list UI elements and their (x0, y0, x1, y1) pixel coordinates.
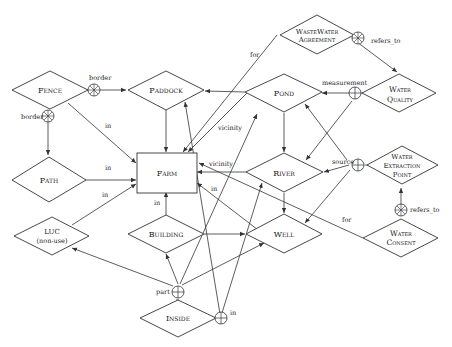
entity-wastewater-agreement[interactable]: WasteWater Agreement (280, 15, 354, 54)
label-luc-in: in (102, 191, 108, 199)
svg-text:Pond: Pond (274, 89, 295, 98)
entity-well[interactable]: Well (246, 214, 322, 253)
label-fence-in: in (105, 122, 111, 130)
svg-text:LUC: LUC (44, 228, 60, 236)
entity-water-quality[interactable]: Water Quality (362, 74, 436, 112)
entity-building[interactable]: Building (128, 215, 204, 253)
junction-border-top-icon (88, 84, 100, 96)
entity-water-consent[interactable]: Water Consent (363, 219, 438, 257)
entity-pond[interactable]: Pond (245, 74, 322, 112)
svg-text:Building: Building (149, 230, 184, 239)
label-refers-to-bottom: refers_to (410, 206, 440, 214)
label-path-in: in (105, 164, 111, 172)
svg-text:River: River (273, 169, 295, 178)
label-border-top: border (89, 74, 112, 82)
label-source: source (332, 158, 354, 166)
svg-text:Quality: Quality (387, 95, 413, 104)
label-refers-to-top: refers_to (371, 37, 401, 45)
svg-text:Water: Water (391, 153, 413, 161)
svg-text:Point: Point (393, 171, 412, 179)
edge-part-building (166, 254, 178, 284)
entity-water-extraction-point[interactable]: Water Extraction Point (367, 146, 438, 184)
svg-text:Fence: Fence (38, 86, 62, 95)
label-building-in: in (154, 199, 160, 207)
edge-pond-farm (188, 92, 248, 152)
edge-measurement-river (306, 101, 352, 160)
svg-text:Well: Well (274, 230, 295, 239)
entity-river[interactable]: River (246, 153, 323, 192)
label-for-consent: for (342, 216, 352, 224)
edge-part-luc (72, 248, 173, 286)
entity-path[interactable]: Path (12, 157, 86, 202)
svg-text:Water: Water (389, 85, 411, 94)
entity-luc[interactable]: LUC (non-use) (14, 217, 89, 255)
edge-source-river (324, 165, 349, 172)
entity-farm[interactable]: Farm (137, 153, 197, 193)
svg-text:Water: Water (390, 229, 412, 238)
label-inside-in: in (230, 309, 236, 317)
entity-fence[interactable]: Fence (12, 71, 88, 109)
svg-text:Consent: Consent (387, 238, 417, 247)
svg-text:Path: Path (40, 176, 59, 185)
junction-refers-to-bottom-icon (395, 204, 407, 216)
junction-border-left-icon (42, 110, 54, 122)
edge-part-well (182, 243, 264, 285)
junction-part-icon (172, 286, 184, 298)
junction-measurement-icon (349, 87, 361, 99)
label-border-left: border (21, 113, 44, 121)
svg-text:Extraction: Extraction (384, 162, 422, 170)
farm-label: Farm (157, 169, 178, 178)
edge-fence-farm (68, 103, 136, 163)
svg-text:Paddock: Paddock (149, 86, 183, 95)
edge-source-pond (305, 104, 347, 160)
label-measurement: measurement (322, 79, 368, 87)
junction-in-icon (215, 312, 227, 324)
entity-paddock[interactable]: Paddock (128, 71, 204, 110)
svg-text:Agreement: Agreement (298, 36, 336, 44)
label-for-wastewater: for (250, 51, 260, 59)
edge-pond-paddock (205, 91, 245, 92)
er-diagram: Farm Fence Paddock Pond WasteWater Agree… (0, 0, 452, 347)
edge-in-river (222, 183, 262, 313)
entity-inside[interactable]: Inside (140, 300, 216, 337)
junction-refers-to-top-icon (352, 32, 364, 44)
label-river-in: in (211, 185, 217, 193)
svg-text:(non-use): (non-use) (37, 237, 68, 245)
svg-text:WasteWater: WasteWater (296, 28, 339, 36)
label-vicinity-pond: vicinity (217, 124, 242, 132)
svg-text:Inside: Inside (166, 314, 190, 323)
label-vicinity-river: vicinity (208, 160, 233, 168)
label-part: part (156, 288, 170, 296)
